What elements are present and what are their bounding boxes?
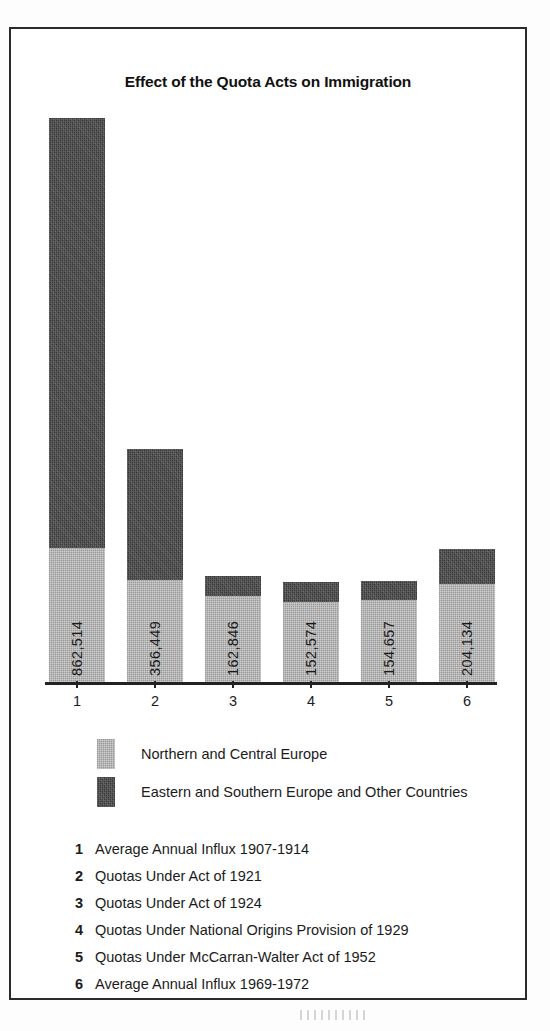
bar-segment-northern-central[interactable]: 162,846 (205, 596, 261, 682)
x-axis-label-3: 3 (205, 693, 261, 709)
bar-stack: 356,449 (127, 449, 183, 682)
x-axis-tick-5 (388, 681, 390, 688)
key-item-4: 4Quotas Under National Origins Provision… (63, 922, 513, 949)
x-axis-tick-1 (76, 681, 78, 688)
key-item-number: 3 (63, 895, 83, 911)
bar-segment-eastern-southern[interactable] (283, 582, 339, 601)
x-axis-tick-2 (154, 681, 156, 688)
bar-segment-northern-central[interactable]: 204,134 (439, 584, 495, 682)
key-item-3: 3Quotas Under Act of 1924 (63, 895, 513, 922)
key-item-text: Average Annual Influx 1907-1914 (95, 841, 309, 857)
bar-segment-northern-central[interactable]: 154,657 (361, 600, 417, 682)
key-item-number: 1 (63, 841, 83, 857)
bar-segment-northern-central[interactable]: 152,574 (283, 602, 339, 682)
x-axis-label-2: 2 (127, 693, 183, 709)
scan-artifact (300, 1010, 370, 1020)
x-axis-label-1: 1 (49, 693, 105, 709)
bars-container: 862,514356,449162,846152,574154,657204,1… (39, 107, 507, 682)
key-item-text: Average Annual Influx 1969-1972 (95, 976, 309, 992)
bar-segment-northern-central[interactable]: 356,449 (127, 580, 183, 682)
legend-row-0[interactable]: Northern and Central Europe (97, 735, 517, 773)
x-axis-label-5: 5 (361, 693, 417, 709)
key-item-text: Quotas Under Act of 1921 (95, 868, 262, 884)
bar-stack: 152,574 (283, 582, 339, 682)
x-axis-label-6: 6 (439, 693, 495, 709)
key-item-1: 1Average Annual Influx 1907-1914 (63, 841, 513, 868)
bar-segment-northern-central[interactable]: 862,514 (49, 548, 105, 682)
bar-segment-eastern-southern[interactable] (439, 549, 495, 584)
key-item-text: Quotas Under McCarran-Walter Act of 1952 (95, 949, 376, 965)
key-item-number: 4 (63, 922, 83, 938)
key-item-text: Quotas Under National Origins Provision … (95, 922, 409, 938)
bar-segment-eastern-southern[interactable] (49, 118, 105, 548)
bar-stack: 862,514 (49, 118, 105, 682)
key-item-text: Quotas Under Act of 1924 (95, 895, 262, 911)
x-axis-label-4: 4 (283, 693, 339, 709)
key-item-6: 6Average Annual Influx 1969-1972 (63, 976, 513, 1003)
x-axis-line (45, 682, 497, 685)
key-item-number: 5 (63, 949, 83, 965)
plot-area: 862,514356,449162,846152,574154,657204,1… (39, 99, 507, 691)
x-axis-tick-3 (232, 681, 234, 688)
bar-segment-eastern-southern[interactable] (127, 449, 183, 580)
chart-title: Effect of the Quota Acts on Immigration (11, 73, 525, 91)
bar-stack: 204,134 (439, 549, 495, 682)
x-axis-labels: 123456 (39, 693, 507, 717)
legend-row-1[interactable]: Eastern and Southern Europe and Other Co… (97, 773, 517, 811)
key-item-5: 5Quotas Under McCarran-Walter Act of 195… (63, 949, 513, 976)
legend: Northern and Central EuropeEastern and S… (97, 735, 517, 811)
legend-swatch-icon (97, 777, 115, 807)
bar-segment-eastern-southern[interactable] (205, 576, 261, 597)
x-axis-tick-6 (466, 681, 468, 688)
figure-frame: Effect of the Quota Acts on Immigration … (9, 27, 527, 1000)
legend-swatch-icon (97, 739, 115, 769)
key-item-number: 6 (63, 976, 83, 992)
key-item-number: 2 (63, 868, 83, 884)
category-key-list: 1Average Annual Influx 1907-19142Quotas … (63, 841, 513, 1003)
key-item-2: 2Quotas Under Act of 1921 (63, 868, 513, 895)
legend-label: Eastern and Southern Europe and Other Co… (141, 784, 467, 800)
bar-stack: 162,846 (205, 576, 261, 682)
scanned-page: Effect of the Quota Acts on Immigration … (0, 0, 550, 1031)
bar-stack: 154,657 (361, 581, 417, 682)
x-axis-tick-4 (310, 681, 312, 688)
bar-segment-eastern-southern[interactable] (361, 581, 417, 600)
legend-label: Northern and Central Europe (141, 746, 327, 762)
